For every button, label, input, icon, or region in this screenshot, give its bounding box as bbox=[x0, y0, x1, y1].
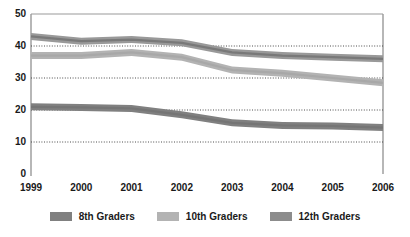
legend-label: 8th Graders bbox=[79, 211, 135, 222]
y-tick-label-40: 40 bbox=[4, 41, 26, 51]
x-tick-label-2002: 2002 bbox=[162, 183, 202, 193]
legend-label: 12th Graders bbox=[299, 211, 361, 222]
y-tick-label-30: 30 bbox=[4, 73, 26, 83]
y-tick-label-10: 10 bbox=[4, 137, 26, 147]
plot-area bbox=[0, 0, 410, 237]
x-tick-label-2004: 2004 bbox=[262, 183, 302, 193]
line-chart: 01020304050 1999200020012002200320042005… bbox=[0, 0, 410, 237]
legend-item-12th-graders[interactable]: 12th Graders bbox=[270, 211, 361, 222]
legend-swatch-icon bbox=[50, 212, 72, 221]
legend-label: 10th Graders bbox=[186, 211, 248, 222]
y-tick-label-0: 0 bbox=[4, 169, 26, 179]
x-tick-label-2006: 2006 bbox=[363, 183, 403, 193]
legend-item-8th-graders[interactable]: 8th Graders bbox=[50, 211, 135, 222]
y-tick-label-20: 20 bbox=[4, 105, 26, 115]
legend-item-10th-graders[interactable]: 10th Graders bbox=[157, 211, 248, 222]
y-tick-label-50: 50 bbox=[4, 9, 26, 19]
legend-swatch-icon bbox=[270, 212, 292, 221]
legend-swatch-icon bbox=[157, 212, 179, 221]
x-tick-label-2000: 2000 bbox=[61, 183, 101, 193]
x-tick-label-1999: 1999 bbox=[11, 183, 51, 193]
chart-legend: 8th Graders10th Graders12th Graders bbox=[0, 205, 410, 227]
x-tick-label-2003: 2003 bbox=[212, 183, 252, 193]
x-tick-label-2005: 2005 bbox=[313, 183, 353, 193]
x-tick-label-2001: 2001 bbox=[112, 183, 152, 193]
